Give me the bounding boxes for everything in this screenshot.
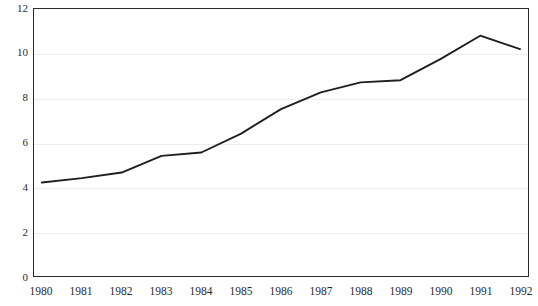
plot-area xyxy=(33,8,529,277)
x-tick-label: 1983 xyxy=(150,285,173,298)
x-tick-label: 1981 xyxy=(70,285,93,298)
y-tick-label: 6 xyxy=(23,137,29,148)
data-series-line xyxy=(34,9,528,276)
x-tick-label: 1988 xyxy=(350,285,373,298)
x-tick-label: 1984 xyxy=(190,285,213,298)
x-tick-label: 1992 xyxy=(510,285,533,298)
line-chart: 024681012 198019811982198319841985198619… xyxy=(0,0,538,306)
series-polyline xyxy=(42,36,520,183)
x-tick-label: 1980 xyxy=(30,285,53,298)
y-tick-label: 8 xyxy=(23,92,29,103)
x-axis: 1980198119821983198419851986198719881989… xyxy=(33,285,529,303)
x-tick-label: 1990 xyxy=(430,285,453,298)
y-axis: 024681012 xyxy=(0,0,33,306)
y-tick-label: 0 xyxy=(23,272,29,283)
x-tick-label: 1986 xyxy=(270,285,293,298)
x-tick-label: 1987 xyxy=(310,285,333,298)
y-tick-label: 2 xyxy=(23,227,29,238)
y-tick-label: 4 xyxy=(23,182,29,193)
chart-title xyxy=(0,0,538,3)
y-tick-label: 12 xyxy=(17,3,28,14)
x-tick-label: 1985 xyxy=(230,285,253,298)
y-tick-label: 10 xyxy=(17,47,28,58)
x-tick-label: 1991 xyxy=(470,285,493,298)
x-tick-label: 1982 xyxy=(110,285,133,298)
x-tick-label: 1989 xyxy=(390,285,413,298)
